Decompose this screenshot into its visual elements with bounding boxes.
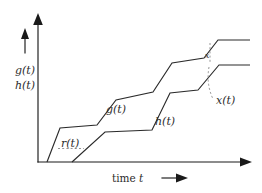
label-x-small: x (205, 51, 210, 60)
label-h-of-t: h(t) (155, 115, 175, 128)
label-g-of-t: g(t) (106, 103, 126, 116)
y-direction-arrow-icon (21, 28, 29, 53)
piecewise-linear-functions-diagram: g(t) h(t) time t g(t) h(t) r(t) x(t) x (0, 0, 262, 193)
x-axis-label-text: time (112, 172, 139, 184)
x-axis-label: time t (112, 172, 144, 184)
y-axis-arrowhead-icon (33, 13, 43, 25)
x-axis-label-variable: t (139, 172, 144, 184)
y-axis-label-h: h(t) (15, 79, 35, 92)
y-axis-label-g: g(t) (15, 64, 35, 77)
x-callout-dashed-leader (208, 67, 213, 99)
figure-canvas: g(t) h(t) time t g(t) h(t) r(t) x(t) x (0, 0, 262, 193)
label-r-of-t: r(t) (61, 137, 79, 150)
x-direction-arrow-icon (162, 173, 188, 182)
x-axis-arrowhead-icon (240, 157, 252, 166)
label-x-of-t: x(t) (216, 94, 235, 107)
